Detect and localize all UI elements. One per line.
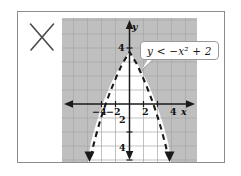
y-tick-label--2: 2 <box>119 114 126 125</box>
figure-container: −4 −2 2 4 4 2 4 y x y < −x² + 2 <box>0 0 241 176</box>
x-axis-label: x <box>181 106 187 117</box>
y-tick-label-4: 4 <box>118 42 125 53</box>
coordinate-plane <box>62 18 197 162</box>
y-tick-label--4: 4 <box>119 142 126 153</box>
x-mark-icon <box>28 22 56 52</box>
x-tick-label--4: −4 <box>92 106 107 117</box>
inequality-callout: y < −x² + 2 <box>140 41 219 60</box>
x-tick-label-2: 2 <box>142 106 149 117</box>
graph-panel: −4 −2 2 4 4 2 4 y x <box>62 18 197 162</box>
y-axis-label: y <box>132 21 138 32</box>
x-tick-label-4: 4 <box>170 106 177 117</box>
inequality-label: y < −x² + 2 <box>147 45 212 57</box>
